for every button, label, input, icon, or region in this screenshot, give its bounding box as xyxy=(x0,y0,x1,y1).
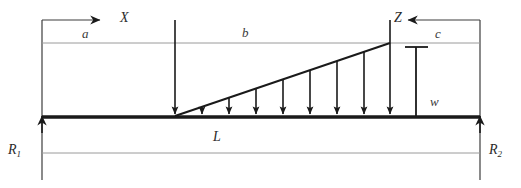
beam-diagram: X a b Z c w L R1 R2 xyxy=(0,0,521,188)
label-reaction-right: R2 xyxy=(489,143,502,157)
label-dimension-c: c xyxy=(435,27,441,40)
label-dimension-b: b xyxy=(242,26,249,39)
label-z-axis: Z xyxy=(394,11,402,25)
label-reaction-left: R1 xyxy=(8,143,21,157)
distributed-load-arrows xyxy=(202,52,364,114)
beam-diagram-svg xyxy=(0,0,521,188)
reaction-right-subscript: 2 xyxy=(498,149,503,159)
extension-lines xyxy=(42,20,480,180)
reaction-left-subscript: 1 xyxy=(17,149,22,159)
label-load-intensity-w: w xyxy=(430,95,439,108)
label-dimension-L: L xyxy=(213,130,221,144)
dimension-w xyxy=(405,47,428,117)
reaction-right-symbol: R xyxy=(489,142,498,157)
label-x-axis: X xyxy=(120,11,129,25)
reaction-left-symbol: R xyxy=(8,142,17,157)
label-dimension-a: a xyxy=(82,27,89,40)
